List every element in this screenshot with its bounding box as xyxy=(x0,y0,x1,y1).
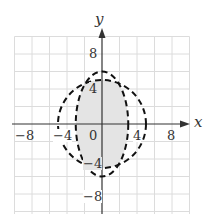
xtick-minus-8: −8 xyxy=(15,129,34,142)
x-axis-arrow-icon xyxy=(180,121,190,128)
ytick-8: 8 xyxy=(89,47,97,60)
ytick-minus-8: −8 xyxy=(83,190,102,203)
xtick-minus-4: −4 xyxy=(53,129,72,142)
xtick-4: 4 xyxy=(133,129,141,142)
graph-canvas xyxy=(0,0,213,214)
xtick-8: 8 xyxy=(167,129,175,142)
ytick-minus-4: −4 xyxy=(83,157,102,170)
x-axis-label: x xyxy=(194,115,202,130)
y-axis-label: y xyxy=(95,12,103,27)
y-axis-arrow-icon xyxy=(99,28,106,38)
ytick-4: 4 xyxy=(89,82,97,95)
origin-label: 0 xyxy=(89,129,97,142)
